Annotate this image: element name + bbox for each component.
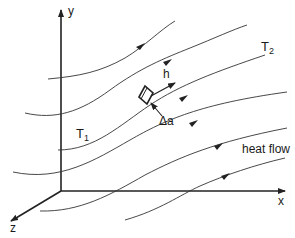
temperature-t1-label: T1 bbox=[76, 127, 89, 143]
flow-line-1 bbox=[48, 21, 175, 79]
area-delta-a-label: Δa bbox=[159, 115, 174, 127]
heat-flow-diagram: y x z T1 T2 h Δa heat flow bbox=[0, 0, 295, 238]
z-axis-label: z bbox=[10, 222, 16, 234]
normal-vector-h bbox=[151, 83, 175, 96]
surface-element bbox=[139, 86, 153, 104]
flow-arrow-1 bbox=[136, 43, 145, 50]
flow-arrow-3 bbox=[179, 95, 188, 102]
z-axis bbox=[11, 191, 61, 221]
flow-lines bbox=[13, 21, 287, 220]
flow-arrow-2 bbox=[163, 59, 172, 66]
flow-line-3 bbox=[58, 55, 265, 150]
heat-flow-label: heat flow bbox=[242, 143, 290, 155]
flow-line-2 bbox=[25, 25, 247, 115]
flow-line-4 bbox=[13, 92, 287, 174]
vector-h-label: h bbox=[163, 68, 170, 80]
flow-line-6 bbox=[125, 158, 285, 220]
x-axis-label: x bbox=[278, 195, 284, 207]
flow-arrow-5 bbox=[214, 143, 223, 150]
temperature-t2-label: T2 bbox=[261, 40, 274, 56]
diagram-svg bbox=[0, 0, 295, 238]
flow-arrow-6 bbox=[221, 173, 230, 180]
y-axis-label: y bbox=[68, 5, 74, 17]
flow-arrow-4 bbox=[189, 120, 198, 127]
flow-arrows bbox=[136, 43, 230, 180]
